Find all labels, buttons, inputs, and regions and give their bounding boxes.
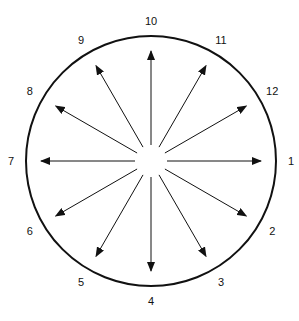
- direction-label-3: 3: [218, 276, 224, 288]
- arrow-2: [165, 169, 246, 216]
- direction-label-10: 10: [145, 15, 157, 27]
- direction-label-2: 2: [269, 225, 275, 237]
- direction-label-7: 7: [8, 155, 14, 167]
- arrow-3: [159, 175, 206, 256]
- arrow-11: [159, 66, 206, 147]
- direction-label-4: 4: [148, 295, 154, 307]
- arrow-6: [56, 169, 137, 216]
- arrow-12: [165, 106, 246, 153]
- arrows-group: [41, 51, 261, 271]
- direction-label-12: 12: [266, 85, 278, 97]
- direction-label-5: 5: [78, 276, 84, 288]
- radial-dial-diagram: 112111098765432: [0, 0, 299, 321]
- arrow-8: [56, 106, 137, 153]
- arrow-9: [96, 66, 143, 147]
- direction-label-9: 9: [78, 34, 84, 46]
- direction-label-8: 8: [27, 85, 33, 97]
- direction-label-1: 1: [288, 155, 294, 167]
- direction-label-6: 6: [27, 225, 33, 237]
- direction-label-11: 11: [215, 34, 226, 46]
- arrow-5: [96, 175, 143, 256]
